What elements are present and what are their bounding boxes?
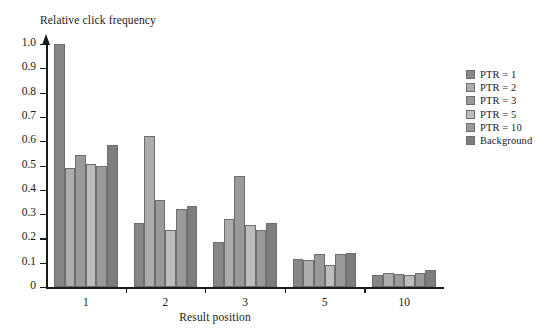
legend-item-label: Background (480, 135, 532, 146)
x-axis-title: Result position (0, 311, 430, 323)
legend-item: PTR = 1 (466, 68, 556, 81)
y-axis-tick: 0 (40, 287, 46, 288)
x-axis-tick-label: 5 (305, 296, 345, 308)
bar (425, 270, 436, 287)
bar (383, 273, 394, 287)
bar (86, 164, 97, 287)
x-axis-tick-label: 2 (145, 296, 185, 308)
y-axis-tick-label: 0.2 (22, 230, 36, 242)
x-axis-tick (205, 287, 206, 293)
bar (372, 275, 383, 287)
x-axis-tick-label: 1 (66, 296, 106, 308)
bars-layer (46, 44, 444, 287)
legend-item: PTR = 3 (466, 94, 556, 107)
bar (176, 209, 187, 287)
legend-item-label: PTR = 5 (480, 109, 516, 120)
bar (266, 223, 277, 287)
legend-swatch (466, 83, 475, 92)
bar (107, 145, 118, 287)
legend-swatch (466, 96, 475, 105)
bar (224, 219, 235, 287)
legend-swatch (466, 110, 475, 119)
y-axis-tick-label: 0.1 (22, 255, 36, 267)
x-axis-line (46, 287, 444, 289)
bar (394, 274, 405, 287)
legend-swatch (466, 70, 475, 79)
y-axis-tick-label: 0.7 (22, 109, 36, 121)
y-axis-tick-label: 0.9 (22, 60, 36, 72)
x-axis-tick-label: 3 (225, 296, 265, 308)
bar (213, 242, 224, 287)
bar (75, 155, 86, 287)
bar (134, 223, 145, 287)
bar (335, 254, 346, 287)
bar (346, 253, 357, 287)
y-axis-tick-label: 0.5 (22, 158, 36, 170)
y-axis-title: Relative click frequency (40, 14, 156, 26)
bar (415, 273, 426, 287)
y-axis-tick-label: 0.6 (22, 133, 36, 145)
bar (234, 176, 245, 287)
bar (256, 230, 267, 287)
legend-item: Background (466, 134, 556, 147)
plot-area: 00.10.20.30.40.50.60.70.80.91.0 123510 (46, 44, 444, 287)
bar-chart: Relative click frequency 00.10.20.30.40.… (0, 0, 558, 335)
x-axis-tick (364, 287, 365, 293)
y-axis-tick-label: 0 (30, 279, 36, 291)
y-axis-tick-label: 1.0 (22, 36, 36, 48)
x-axis-tick-label: 10 (384, 296, 424, 308)
legend-swatch (466, 123, 475, 132)
bar (303, 260, 314, 287)
bar (144, 136, 155, 287)
legend: PTR = 1PTR = 2PTR = 3PTR = 5PTR = 10Back… (466, 68, 556, 147)
legend-item-label: PTR = 2 (480, 82, 516, 93)
bar (245, 225, 256, 287)
bar (96, 166, 107, 288)
bar (155, 200, 166, 287)
legend-item: PTR = 2 (466, 81, 556, 94)
y-axis-tick-label: 0.8 (22, 85, 36, 97)
x-axis-tick (285, 287, 286, 293)
legend-item: PTR = 5 (466, 108, 556, 121)
y-axis-tick-label: 0.3 (22, 206, 36, 218)
legend-item: PTR = 10 (466, 121, 556, 134)
x-axis-tick (126, 287, 127, 293)
legend-item-label: PTR = 10 (480, 122, 522, 133)
bar (187, 206, 198, 287)
bar (314, 254, 325, 287)
bar (293, 259, 304, 287)
bar (165, 230, 176, 287)
legend-item-label: PTR = 1 (480, 69, 516, 80)
bar (54, 44, 65, 287)
legend-swatch (466, 136, 475, 145)
y-axis-tick-label: 0.4 (22, 182, 36, 194)
bar (65, 168, 76, 287)
bar (325, 265, 336, 287)
legend-item-label: PTR = 3 (480, 95, 516, 106)
bar (404, 275, 415, 287)
